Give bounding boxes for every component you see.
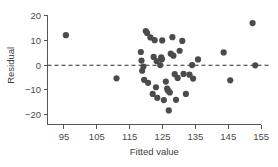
axis-group xyxy=(48,16,262,125)
data-point xyxy=(167,89,173,95)
data-point xyxy=(221,49,227,55)
data-point xyxy=(159,37,165,43)
x-axis-title: Fitted value xyxy=(130,146,179,157)
x-tick-label: 105 xyxy=(89,131,105,142)
scatter-plot-canvas: 20100−10−20 95105115125135145155 Fitted … xyxy=(0,0,278,167)
data-point xyxy=(140,63,146,69)
x-tick-label: 115 xyxy=(122,131,137,142)
data-point xyxy=(153,84,159,90)
y-tick-label: 20 xyxy=(30,10,41,21)
data-point xyxy=(63,32,69,38)
y-tick-label: −10 xyxy=(25,84,41,95)
data-point xyxy=(190,76,196,82)
y-axis-title: Residual xyxy=(5,47,16,84)
data-point xyxy=(161,97,167,103)
x-tick-label: 155 xyxy=(253,131,269,142)
residual-plot-figure: 20100−10−20 95105115125135145155 Fitted … xyxy=(0,0,278,167)
x-tick-label: 125 xyxy=(155,131,171,142)
data-point xyxy=(169,34,175,40)
data-point xyxy=(227,77,233,83)
y-tick-label: −20 xyxy=(25,109,41,120)
data-point xyxy=(113,75,119,81)
x-tick-label: 95 xyxy=(59,131,70,142)
data-point xyxy=(189,62,195,68)
data-point xyxy=(173,97,179,103)
x-tick-label: 145 xyxy=(220,131,236,142)
x-tick-label: 135 xyxy=(187,131,203,142)
data-point xyxy=(138,58,144,64)
y-tick-label: 10 xyxy=(30,35,41,46)
data-point xyxy=(145,80,151,86)
data-point xyxy=(249,20,255,26)
data-point xyxy=(166,107,172,113)
data-point xyxy=(154,95,160,101)
data-point xyxy=(138,49,144,55)
data-point xyxy=(177,48,183,54)
data-point xyxy=(170,53,176,59)
data-point xyxy=(252,62,258,68)
y-tick-label: 0 xyxy=(36,60,41,71)
data-point xyxy=(157,62,163,68)
data-point xyxy=(183,91,189,97)
data-point xyxy=(179,38,185,44)
data-point xyxy=(175,75,181,81)
data-point xyxy=(180,71,186,77)
data-points-group xyxy=(63,20,259,114)
x-axis-ticks: 95105115125135145155 xyxy=(59,125,269,142)
data-point xyxy=(195,56,201,62)
data-point xyxy=(152,37,158,43)
y-axis-ticks: 20100−10−20 xyxy=(25,10,48,120)
data-point xyxy=(159,56,165,62)
data-point xyxy=(163,78,169,84)
